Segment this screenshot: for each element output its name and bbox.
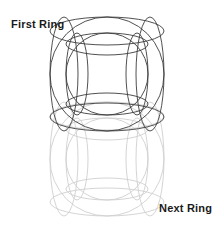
first-ring-outer-circle xyxy=(50,17,164,131)
ring-first-graphic xyxy=(50,17,164,131)
first-ring-left-profile-inner xyxy=(66,33,88,115)
first-ring-label: First Ring xyxy=(11,18,64,30)
ring-next-graphic xyxy=(50,102,164,216)
torus-diagram xyxy=(0,0,224,231)
first-ring-top-profile-inner xyxy=(66,33,148,55)
first-ring-right-profile-inner xyxy=(126,33,148,115)
next-ring-outer-circle xyxy=(50,102,164,216)
next-ring-label: Next Ring xyxy=(159,202,212,214)
diagram-canvas: First Ring Next Ring xyxy=(0,0,224,231)
next-ring-bottom-profile-inner xyxy=(66,178,148,200)
